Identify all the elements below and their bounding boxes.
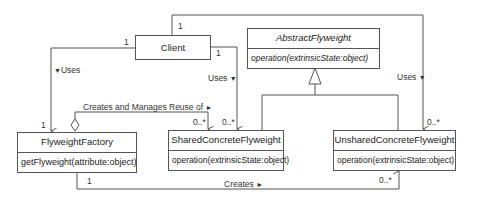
class-name: UnsharedConcreteFlyweight (334, 131, 455, 151)
class-shared-concrete-flyweight[interactable]: SharedConcreteFlyweight operation(extrin… (168, 130, 284, 171)
multiplicity-label: 0..* (222, 117, 235, 127)
class-unshared-concrete-flyweight[interactable]: UnsharedConcreteFlyweight operation(extr… (333, 130, 456, 171)
association-label: Uses ▼ (208, 73, 237, 83)
generalization-triangle-icon (309, 68, 321, 84)
class-name: FlyweightFactory (18, 133, 136, 153)
class-operation: operation(extrinsicState:object) (248, 49, 379, 68)
class-operation: operation(extrinsicState:object) (169, 151, 283, 170)
multiplicity-label: 1 (41, 120, 46, 130)
association-label: ▼Uses (54, 65, 80, 75)
association-label: Uses ▼ (397, 72, 426, 82)
multiplicity-label: 1 (87, 176, 92, 186)
association-label: Creates and Manages Reuse of ► (83, 102, 212, 112)
multiplicity-label: 1 (178, 21, 183, 31)
class-client[interactable]: Client (135, 35, 211, 60)
multiplicity-label: 0..* (427, 117, 440, 127)
class-operation: getFlyweight(attribute:object) (18, 153, 136, 172)
multiplicity-label: 0..* (379, 175, 392, 185)
arrow-right-icon: ► (256, 181, 263, 188)
class-name: Client (136, 36, 210, 59)
arrow-down-icon: ▼ (230, 75, 237, 82)
arrow-down-icon: ▼ (54, 67, 61, 74)
multiplicity-label: 1 (216, 48, 221, 58)
class-name: SharedConcreteFlyweight (169, 131, 283, 151)
arrow-right-icon: ► (205, 104, 212, 111)
class-operation: operation(extrinsicState:object) (334, 151, 455, 170)
multiplicity-label: 0..* (193, 117, 206, 127)
class-abstract-flyweight[interactable]: AbstractFlyweight operation(extrinsicSta… (247, 28, 380, 69)
arrow-down-icon: ▼ (419, 74, 426, 81)
association-label: Creates ► (224, 179, 263, 189)
class-name: AbstractFlyweight (248, 29, 379, 49)
multiplicity-label: 1 (124, 37, 129, 47)
aggregation-diamond-icon (71, 119, 79, 131)
class-flyweight-factory[interactable]: FlyweightFactory getFlyweight(attribute:… (17, 132, 137, 173)
